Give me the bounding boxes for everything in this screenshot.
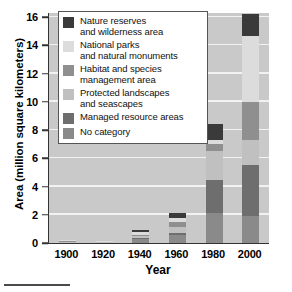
legend-label: Nature reservesand wilderness area <box>80 16 163 37</box>
bar-segment <box>96 242 113 243</box>
legend-swatch-icon <box>63 17 74 28</box>
legend-item[interactable]: Protected landscapesand seascapes <box>63 88 203 109</box>
bar-segment <box>242 36 259 102</box>
legend-item[interactable]: No category <box>63 127 203 139</box>
bar-segment <box>242 14 259 35</box>
bar-segment <box>96 242 113 243</box>
y-tick-label: 2 <box>32 209 38 221</box>
bar-segment <box>169 227 186 233</box>
bar-2000 <box>242 14 259 243</box>
legend-swatch-icon <box>63 113 74 124</box>
bar-segment <box>132 236 149 238</box>
y-tick-label: 16 <box>26 11 38 23</box>
bar-segment <box>132 235 149 236</box>
bar-segment <box>206 140 223 144</box>
bar-segment <box>169 222 186 227</box>
bar-segment <box>132 239 149 243</box>
bar-segment <box>206 124 223 140</box>
legend-label: Managed resource areas <box>80 112 183 123</box>
y-axis-title: Area (million square kilometers) <box>13 9 25 239</box>
bar-segment <box>206 213 223 243</box>
legend-label: Protected landscapesand seascapes <box>80 88 169 109</box>
legend-item[interactable]: National parksand natural monuments <box>63 40 203 61</box>
legend-swatch-icon <box>63 128 74 139</box>
x-tick-label: 1920 <box>91 248 115 260</box>
bar-segment <box>242 165 259 216</box>
y-tick-label: 12 <box>26 68 38 80</box>
bar-segment <box>206 151 223 181</box>
bar-segment <box>206 180 223 212</box>
bar-segment <box>242 102 259 140</box>
x-tick-label: 1900 <box>54 248 78 260</box>
x-axis-title: Year <box>48 263 268 277</box>
bar-segment <box>132 230 149 232</box>
bar-segment <box>59 242 76 243</box>
bar-segment <box>206 144 223 151</box>
y-tick-label: 6 <box>32 152 38 164</box>
y-tick-label: 10 <box>26 96 38 108</box>
bar-segment <box>169 235 186 243</box>
y-tick-label: 4 <box>32 181 38 193</box>
legend-label: Habitat and speciesmanagement area <box>80 64 162 85</box>
chart-legend: Nature reservesand wilderness areaNation… <box>58 11 208 144</box>
x-tick-label: 1940 <box>128 248 152 260</box>
y-tick-label: 0 <box>32 237 38 249</box>
y-tick-label: 8 <box>32 124 38 136</box>
legend-label: No category <box>80 127 130 138</box>
bar-segment <box>242 216 259 243</box>
legend-swatch-icon <box>63 41 74 52</box>
bar-segment <box>59 241 76 242</box>
x-tick-label: 1980 <box>201 248 225 260</box>
bar-segment <box>59 240 76 241</box>
bar-segment <box>169 218 186 222</box>
chart-figure: 0246810121416 Area (million square kilom… <box>0 0 292 292</box>
x-tick-label: 1960 <box>164 248 188 260</box>
legend-item[interactable]: Nature reservesand wilderness area <box>63 16 203 37</box>
legend-item[interactable]: Managed resource areas <box>63 112 203 124</box>
bar-segment <box>169 233 186 235</box>
page-edge-artifact <box>4 284 70 286</box>
bar-1980 <box>206 124 223 243</box>
bar-segment <box>59 242 76 243</box>
y-tick-label: 14 <box>26 39 38 51</box>
legend-label: National parksand natural monuments <box>80 40 178 61</box>
bar-1900 <box>59 240 76 243</box>
legend-item[interactable]: Habitat and speciesmanagement area <box>63 64 203 85</box>
x-tick-label: 2000 <box>238 248 262 260</box>
bar-segment <box>132 238 149 239</box>
gridline <box>49 185 269 187</box>
bar-segment <box>132 232 149 234</box>
bar-segment <box>242 140 259 165</box>
gridline <box>49 157 269 159</box>
x-axis: 190019201940196019802000 <box>48 244 268 264</box>
gridline <box>49 213 269 215</box>
legend-swatch-icon <box>63 89 74 100</box>
legend-swatch-icon <box>63 65 74 76</box>
bar-1920 <box>96 241 113 243</box>
bar-1940 <box>132 230 149 243</box>
bar-1960 <box>169 213 186 243</box>
bar-segment <box>169 213 186 217</box>
